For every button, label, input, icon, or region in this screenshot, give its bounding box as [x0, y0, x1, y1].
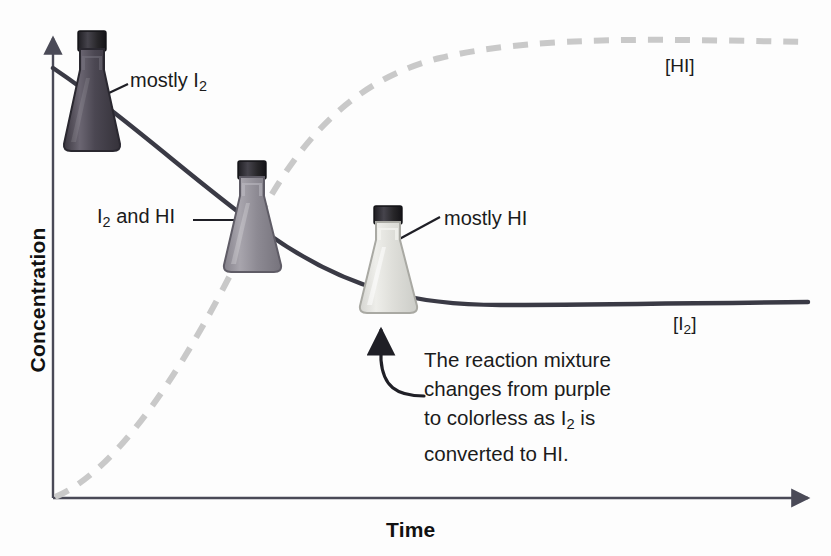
plot-canvas — [0, 0, 831, 556]
x-axis-title: Time — [386, 518, 435, 542]
caption-line-3-subscript: 2 — [566, 416, 574, 432]
caption-line-1: The reaction mixture — [424, 345, 674, 374]
series-label-hi-text: [HI] — [665, 55, 695, 76]
callout-label-mostly-i2: mostly I2 — [130, 70, 207, 94]
concentration-vs-time-figure: Concentration Time mostly I2 I2 and HI m… — [0, 0, 831, 556]
caption-line-3: to colorless as I2 is — [424, 403, 674, 439]
series-label-i2: [I2] — [673, 313, 696, 337]
caption-line-2: changes from purple — [424, 374, 674, 403]
caption-line-3b: is — [575, 406, 596, 429]
flask-body-1 — [64, 49, 120, 151]
caption-curved-arrow — [381, 330, 424, 396]
series-label-i2-prefix: [I — [673, 313, 684, 334]
series-label-i2-suffix: ] — [691, 313, 696, 334]
callout-label-i2-and-hi: I2 and HI — [97, 206, 175, 230]
caption-line-4: converted to HI. — [424, 439, 674, 468]
callout-mostly-i2-text: mostly I — [130, 69, 199, 91]
flask-i2-and-hi — [224, 161, 281, 272]
y-axis-title: Concentration — [26, 210, 50, 390]
callout-i2-and-hi-suffix: and HI — [111, 205, 175, 227]
caption-line-3a: to colorless as I — [424, 406, 566, 429]
callout-mostly-hi-text: mostly HI — [444, 207, 527, 229]
callout-label-mostly-hi: mostly HI — [444, 208, 527, 229]
i2-concentration-curve — [53, 68, 808, 305]
flask-mostly-hi — [360, 206, 417, 313]
callout-mostly-i2-subscript: 2 — [199, 78, 207, 94]
series-label-hi: [HI] — [665, 55, 695, 77]
caption-text-block: The reaction mixture changes from purple… — [424, 345, 674, 468]
callout-i2-and-hi-subscript: 2 — [103, 214, 111, 230]
